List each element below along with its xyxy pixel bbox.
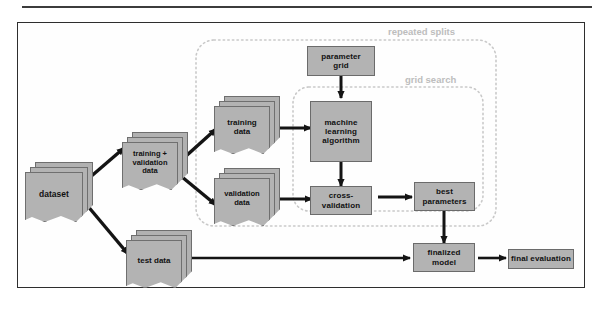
node-training-data[interactable]: training data [214, 106, 270, 154]
bestparams-line1: best [436, 187, 453, 196]
trainval-line3: data [142, 167, 157, 176]
bestparams-line2: parameters [422, 197, 466, 206]
node-test-data[interactable]: test data [126, 240, 182, 288]
node-validation-data[interactable]: validation data [214, 178, 270, 226]
node-dataset[interactable]: dataset [25, 172, 83, 222]
node-parameter-grid[interactable]: parameter grid [307, 46, 375, 76]
region-label-grid-search: grid search [405, 74, 456, 85]
ml-line2: learning [325, 127, 357, 136]
finalmodel-line2: model [432, 258, 456, 267]
paramgrid-line1: parameter [321, 52, 361, 61]
node-test-data-label: test data [126, 240, 182, 288]
node-training-data-label: training data [214, 106, 270, 154]
training-line2: data [234, 127, 250, 136]
finaleval-label: final evaluation [511, 254, 571, 263]
validation-line2: data [234, 199, 250, 208]
ml-line3: algorithm [322, 136, 359, 145]
paramgrid-line2: grid [333, 61, 349, 70]
node-training-validation-data-label: training + validation data [122, 142, 178, 190]
node-finalized-model[interactable]: finalized model [413, 243, 475, 272]
node-machine-learning-algorithm[interactable]: machine learning algorithm [310, 101, 372, 162]
node-training-validation-data[interactable]: training + validation data [122, 142, 178, 190]
ml-line1: machine [324, 118, 357, 127]
finalmodel-line1: finalized [428, 248, 461, 257]
node-best-parameters[interactable]: best parameters [414, 182, 475, 211]
node-final-evaluation[interactable]: final evaluation [508, 249, 574, 269]
cv-line1: cross- [329, 191, 354, 200]
cv-line2: validation [322, 201, 360, 210]
figure-canvas: repeated splits grid search dataset trai… [0, 0, 602, 309]
training-line1: training [227, 118, 256, 127]
node-validation-data-label: validation data [214, 178, 270, 226]
node-cross-validation[interactable]: cross- validation [310, 186, 372, 215]
node-dataset-label: dataset [25, 172, 83, 222]
region-label-repeated-splits: repeated splits [388, 26, 455, 37]
